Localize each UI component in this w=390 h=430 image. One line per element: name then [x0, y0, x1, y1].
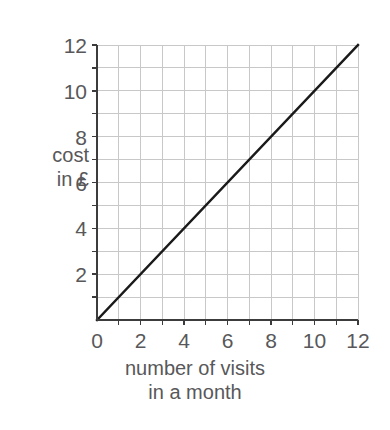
- line-chart-figure: cost in £ number of visits in a month 02…: [0, 0, 390, 430]
- x-axis-title: number of visits in a month: [0, 356, 390, 405]
- x-tick-label: 6: [222, 330, 234, 351]
- x-tick-label: 2: [135, 330, 147, 351]
- x-tick-label: 12: [346, 330, 369, 351]
- y-tick-label: 12: [64, 35, 87, 56]
- x-tick-label: 8: [265, 330, 277, 351]
- axes-and-ticks: [97, 45, 358, 320]
- x-tick-label: 10: [303, 330, 326, 351]
- y-tick-label: 4: [75, 218, 87, 239]
- plot-area: [97, 45, 358, 320]
- y-tick-label: 8: [75, 126, 87, 147]
- x-tick-label: 4: [178, 330, 190, 351]
- y-tick-label: 6: [75, 172, 87, 193]
- y-tick-label: 2: [75, 264, 87, 285]
- y-tick-label: 10: [64, 80, 87, 101]
- x-tick-label: 0: [91, 330, 103, 351]
